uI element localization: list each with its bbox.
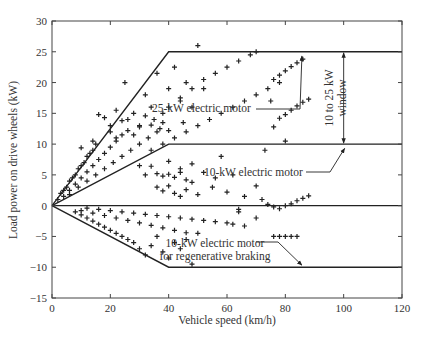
x-tick-label: 60 <box>222 302 234 314</box>
annotation-window-line1: 10 to 25 kW <box>323 69 335 126</box>
annotation-25kw-motor: 25-kW electric motor <box>152 102 251 114</box>
x-tick-label: 100 <box>335 302 352 314</box>
x-tick-label: 40 <box>163 302 175 314</box>
y-tick-label: −10 <box>30 261 48 273</box>
annotation-regen-line2: for regenerative braking <box>159 250 270 263</box>
x-tick-label: 120 <box>394 302 411 314</box>
x-tick-label: 80 <box>280 302 292 314</box>
chart: 020406080100120 −15−10−5051015202530 Veh… <box>0 0 421 338</box>
annotation-10kw-motor: 10-kW electric motor <box>204 166 303 178</box>
annotation-window-line2: window <box>336 79 348 117</box>
x-axis-title: Vehicle speed (km/h) <box>178 314 276 327</box>
y-tick-label: 0 <box>42 200 48 212</box>
y-tick-label: −15 <box>30 292 48 304</box>
y-axis-title: Load power on drive wheels (kW) <box>7 81 20 239</box>
y-tick-label: 15 <box>36 107 48 119</box>
x-tick-label: 0 <box>49 302 55 314</box>
y-tick-label: 25 <box>36 46 48 58</box>
x-tick-label: 20 <box>105 302 117 314</box>
y-tick-label: −5 <box>35 230 47 242</box>
y-tick-label: 10 <box>36 138 48 150</box>
y-tick-label: 5 <box>42 169 48 181</box>
annotation-regen-line1: 10-kW electric motor <box>166 237 265 249</box>
y-tick-label: 30 <box>36 15 48 27</box>
y-tick-label: 20 <box>36 77 48 89</box>
